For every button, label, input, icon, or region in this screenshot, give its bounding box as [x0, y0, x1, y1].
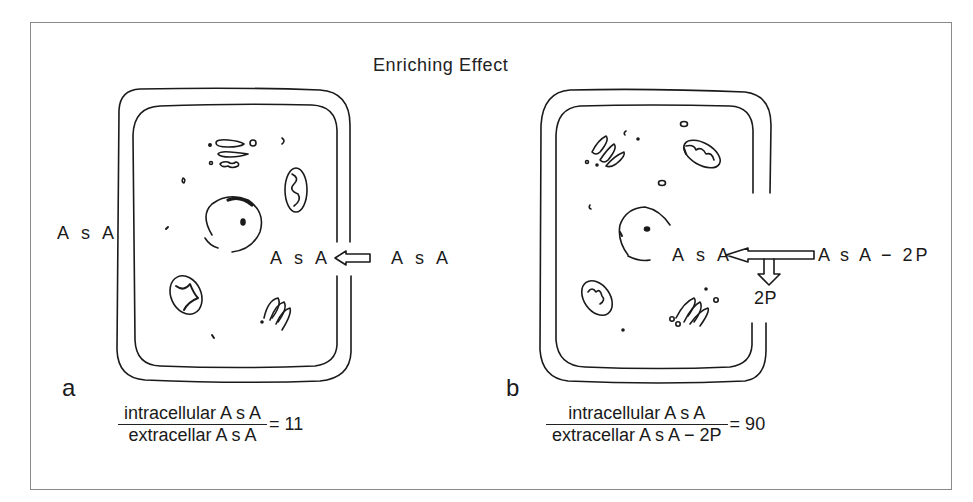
- cell-a-mitochondrion: [285, 168, 307, 212]
- cell-a-golgi: [182, 138, 284, 183]
- panel-a-ratio-result: = 11: [269, 414, 303, 435]
- panel-b-ratio-numerator: intracellular A s A: [562, 403, 711, 424]
- panel-a-label: a: [62, 374, 76, 402]
- cell-a-wall: [117, 88, 351, 382]
- cell-a-organelle-lower-right: [166, 227, 290, 338]
- panel-b-ratio-denominator: extracellar A s A − 2P: [546, 425, 728, 446]
- arrow-icon-release-2p: [758, 259, 780, 285]
- panel-a-ratio-equation: intracellular A s A extracellar A s A = …: [118, 403, 303, 446]
- arrow-icon-uptake-b: [726, 248, 814, 262]
- panel-a-outside-asa-label: A s A: [57, 223, 118, 244]
- cell-b-mitochondrion: [679, 134, 725, 173]
- panel-b-extracellular-asa2p-label: A s A − 2P: [818, 245, 931, 266]
- cell-b-organelle-lower-left: [575, 275, 618, 321]
- arrow-icon-uptake-a: [335, 251, 370, 265]
- panel-a-intracellular-asa-label: A s A: [270, 248, 331, 269]
- panel-b-2p-label: 2P: [754, 288, 777, 309]
- panel-b-label: b: [506, 374, 520, 402]
- panel-a-ratio-numerator: intracellular A s A: [118, 403, 267, 424]
- cell-b-golgi: [586, 122, 688, 210]
- panel-b-ratio-result: = 90: [730, 414, 766, 435]
- cell-a-nucleus: [205, 197, 262, 252]
- panel-a-extracellular-asa-label: A s A: [391, 248, 452, 269]
- cell-b-wall: [540, 89, 771, 383]
- panel-b-intracellular-asa-label: A s A: [672, 245, 733, 266]
- cell-b-organelle-lower-right: [622, 288, 718, 331]
- cell-a-organelle-lower-left: [164, 271, 208, 320]
- panel-b-ratio-equation: intracellular A s A extracellar A s A − …: [546, 403, 765, 446]
- panel-a-ratio-denominator: extracellar A s A: [123, 425, 263, 446]
- cell-b-nucleus: [619, 207, 670, 261]
